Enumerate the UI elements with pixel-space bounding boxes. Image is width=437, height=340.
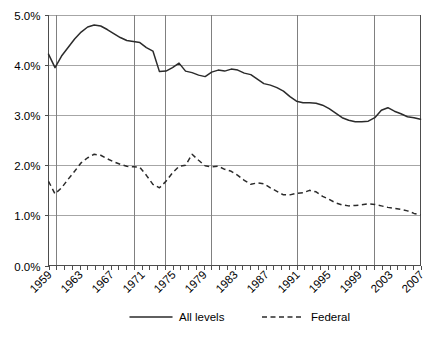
legend-label-federal: Federal: [311, 311, 350, 323]
y-tick-label-2: 2.0%: [14, 160, 40, 172]
y-tick-label-3: 3.0%: [14, 110, 40, 122]
y-tick-label-1: 1.0%: [14, 210, 40, 222]
y-tick-label-4: 4.0%: [14, 60, 40, 72]
y-tick-label-5: 5.0%: [14, 10, 40, 22]
y-tick-label-0: 0.0%: [14, 261, 40, 273]
legend-label-all-levels: All levels: [179, 311, 225, 323]
chart-container: 0.0%1.0%2.0%3.0%4.0%5.0% 195919631967197…: [0, 0, 437, 340]
line-chart: 0.0%1.0%2.0%3.0%4.0%5.0% 195919631967197…: [0, 0, 437, 340]
